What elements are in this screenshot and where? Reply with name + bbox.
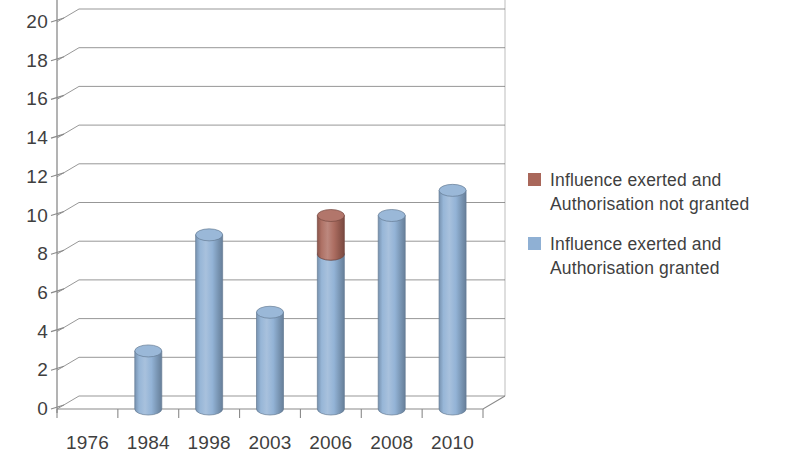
- y-axis-tick-label: 10: [6, 206, 48, 225]
- y-axis-tick-label: 18: [6, 51, 48, 70]
- x-axis-tick-label: 2003: [239, 432, 301, 454]
- legend-swatch-icon: [528, 237, 541, 250]
- bar-chart: 02468101214161820 1976198419982003200620…: [0, 0, 805, 464]
- legend-swatch-icon: [528, 173, 541, 186]
- y-axis-tick-label: 12: [6, 167, 48, 186]
- legend-label: Influence exerted and Authorisation gran…: [550, 232, 802, 280]
- x-axis-tick-label: 2010: [422, 432, 484, 454]
- x-axis-tick-label: 1976: [56, 432, 118, 454]
- y-axis-tick-labels: 02468101214161820: [0, 0, 48, 464]
- x-axis-tick-label: 2008: [361, 432, 423, 454]
- y-axis-tick-label: 16: [6, 89, 48, 108]
- legend-label: Influence exerted and Authorisation not …: [550, 168, 802, 216]
- y-axis-tick-label: 4: [6, 322, 48, 341]
- y-axis-tick-label: 2: [6, 360, 48, 379]
- legend-item[interactable]: Influence exerted and Authorisation gran…: [528, 232, 803, 280]
- x-axis-tick-label: 1984: [117, 432, 179, 454]
- y-axis-tick-label: 8: [6, 244, 48, 263]
- x-axis-tick-label: 2006: [300, 432, 362, 454]
- chart-canvas: [0, 0, 520, 464]
- legend-item[interactable]: Influence exerted and Authorisation not …: [528, 168, 803, 216]
- x-axis-tick-label: 1998: [178, 432, 240, 454]
- x-axis-tick-labels: 1976198419982003200620082010: [0, 432, 520, 462]
- plot-area: 02468101214161820 1976198419982003200620…: [0, 0, 520, 464]
- y-axis-tick-label: 6: [6, 283, 48, 302]
- chart-legend: Influence exerted and Authorisation not …: [528, 168, 803, 296]
- y-axis-tick-label: 20: [6, 12, 48, 31]
- y-axis-tick-label: 0: [6, 399, 48, 418]
- y-axis-tick-label: 14: [6, 128, 48, 147]
